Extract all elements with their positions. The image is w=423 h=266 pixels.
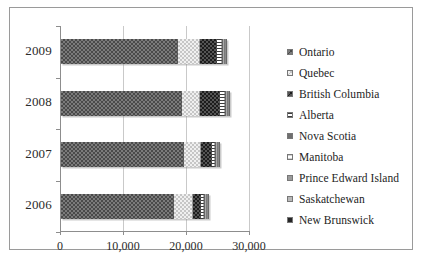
prince-edward-island-swatch-icon (287, 175, 293, 181)
bar-row[interactable] (61, 91, 230, 116)
bar-segment-ontario[interactable] (61, 39, 178, 64)
legend-item-nova-scotia[interactable]: Nova Scotia (287, 125, 405, 146)
legend-label: Nova Scotia (299, 130, 356, 142)
legend-item-british-columbia[interactable]: British Columbia (287, 83, 405, 104)
alberta-swatch-icon (287, 112, 293, 118)
x-axis-label-30000: 30,000 (209, 239, 289, 254)
x-tick-30000 (249, 231, 250, 235)
legend-label: Manitoba (299, 151, 343, 163)
bar-segment-new-brunswick[interactable] (219, 142, 220, 167)
bar-segment-quebec[interactable] (174, 194, 192, 219)
y-tick-3 (56, 181, 60, 182)
legend-label: Quebec (299, 67, 334, 79)
bar-segment-british-columbia[interactable] (200, 91, 220, 116)
chart-legend: OntarioQuebecBritish ColumbiaAlbertaNova… (287, 41, 405, 230)
legend-label: Alberta (299, 109, 334, 121)
y-axis-label-2007: 2007 (10, 146, 52, 162)
plot-area (60, 26, 249, 232)
x-axis-line (60, 231, 249, 232)
y-axis-label-2006: 2006 (10, 197, 52, 213)
legend-label: Ontario (299, 46, 334, 58)
bar-segment-british-columbia[interactable] (201, 142, 212, 167)
legend-item-saskatchewan[interactable]: Saskatchewan (287, 188, 405, 209)
british-columbia-swatch-icon (287, 91, 293, 97)
manitoba-swatch-icon (287, 154, 293, 160)
bar-segment-new-brunswick[interactable] (226, 39, 227, 64)
legend-item-prince-edward-island[interactable]: Prince Edward Island (287, 167, 405, 188)
gridline-30000 (249, 26, 250, 232)
bar-row[interactable] (61, 142, 220, 167)
x-tick-0 (60, 231, 61, 235)
ontario-swatch-icon (287, 49, 293, 55)
legend-item-manitoba[interactable]: Manitoba (287, 146, 405, 167)
bar-row[interactable] (61, 194, 209, 219)
bar-segment-quebec[interactable] (184, 142, 201, 167)
legend-item-quebec[interactable]: Quebec (287, 62, 405, 83)
legend-label: Saskatchewan (299, 193, 365, 205)
y-axis-label-2008: 2008 (10, 94, 52, 110)
chart-figure: 2009200820072006 010,00020,00030,000 Ont… (9, 7, 413, 250)
y-axis-label-2009: 2009 (10, 43, 52, 59)
bar-segment-quebec[interactable] (182, 91, 200, 116)
bar-row[interactable] (61, 39, 227, 64)
y-tick-1 (56, 78, 60, 79)
quebec-swatch-icon (287, 70, 293, 76)
bar-segment-british-columbia[interactable] (200, 39, 218, 64)
nova-scotia-swatch-icon (287, 133, 293, 139)
legend-item-alberta[interactable]: Alberta (287, 104, 405, 125)
bar-segment-british-columbia[interactable] (193, 194, 202, 219)
y-tick-2 (56, 129, 60, 130)
x-tick-10000 (123, 231, 124, 235)
bar-segment-new-brunswick[interactable] (208, 194, 209, 219)
bar-segment-ontario[interactable] (61, 194, 174, 219)
legend-label: Prince Edward Island (299, 172, 399, 184)
bar-segment-ontario[interactable] (61, 91, 182, 116)
saskatchewan-swatch-icon (287, 196, 293, 202)
new-brunswick-swatch-icon (287, 217, 293, 223)
bar-segment-new-brunswick[interactable] (229, 91, 230, 116)
bar-segment-ontario[interactable] (61, 142, 184, 167)
legend-item-ontario[interactable]: Ontario (287, 41, 405, 62)
bar-segment-quebec[interactable] (178, 39, 199, 64)
y-tick-0 (56, 26, 60, 27)
x-tick-20000 (186, 231, 187, 235)
legend-label: British Columbia (299, 88, 379, 100)
legend-label: New Brunswick (299, 214, 374, 226)
legend-item-new-brunswick[interactable]: New Brunswick (287, 209, 405, 230)
